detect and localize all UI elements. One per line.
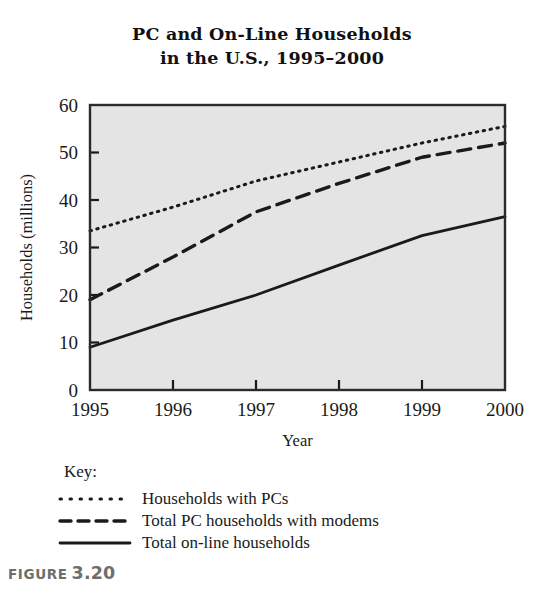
x-tick-label: 2000 [486,399,524,420]
x-tick-label: 1997 [237,399,275,420]
y-tick-label: 40 [59,190,78,211]
x-axis-title: Year [282,431,313,450]
legend-item: Total on-line households [58,532,528,554]
figure-caption-number: 3.20 [72,563,116,583]
y-tick-label: 20 [59,285,78,306]
y-axis-title: Households (millions) [17,174,36,321]
figure-caption: FIGURE3.20 [8,563,116,583]
x-tick-label: 1995 [71,399,109,420]
line-chart-svg: 0102030405060 199519961997199819992000 Y… [0,96,544,456]
figure-container: PC and On-Line Households in the U.S., 1… [0,0,544,591]
y-tick-label: 30 [59,237,78,258]
y-axis-tick-labels: 0102030405060 [59,96,78,401]
plot-background [90,105,505,390]
legend-item: Total PC households with modems [58,510,528,532]
chart-title: PC and On-Line Households in the U.S., 1… [0,22,544,70]
x-tick-label: 1996 [154,399,192,420]
legend-title: Key: [64,462,528,482]
legend-label: Total PC households with modems [142,511,379,531]
legend-label: Households with PCs [142,489,288,509]
chart-legend: Key: Households with PCsTotal PC househo… [58,462,528,554]
y-tick-label: 0 [69,380,79,401]
legend-items: Households with PCsTotal PC households w… [58,488,528,554]
x-tick-label: 1999 [403,399,441,420]
plot-bg-rect [90,105,505,390]
chart-title-line-1: PC and On-Line Households [132,24,412,44]
x-axis-tick-labels: 199519961997199819992000 [71,399,524,420]
legend-swatch-dotted-icon [58,492,132,506]
y-tick-label: 50 [59,142,78,163]
y-tick-label: 10 [59,332,78,353]
legend-label: Total on-line households [142,533,310,553]
y-tick-label: 60 [59,96,78,116]
figure-caption-word: FIGURE [8,566,68,582]
x-tick-label: 1998 [320,399,358,420]
legend-swatch-dashed-icon [58,514,132,528]
plot-area: 0102030405060 199519961997199819992000 Y… [0,96,544,456]
legend-item: Households with PCs [58,488,528,510]
legend-swatch-solid-icon [58,536,132,550]
chart-title-line-2: in the U.S., 1995–2000 [0,46,544,70]
